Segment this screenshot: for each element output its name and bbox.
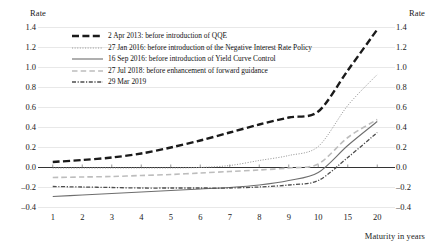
legend-item: 27 Jul 2018: before enhancement of forwa… xyxy=(70,65,312,77)
legend-label: 29 Mar 2019 xyxy=(106,76,146,88)
series-line xyxy=(53,120,378,178)
y-tick-label-right: 1.4 xyxy=(396,22,422,32)
x-tick-label: 8 xyxy=(247,212,271,222)
y-tick-label-right: –0.4 xyxy=(396,202,422,212)
series-line xyxy=(53,133,378,189)
y-tick-label-left: 0.2 xyxy=(12,142,36,152)
x-tick-label: 7 xyxy=(218,212,242,222)
legend-label: 16 Sep 2016: before introduction of Yiel… xyxy=(106,53,276,65)
y-tick-label-left: –0.2 xyxy=(12,182,36,192)
y-tick-label-left: 1.2 xyxy=(12,42,36,52)
interest-rate-yield-curve-chart: Rate Rate Maturity in years 1.41.21.00.8… xyxy=(0,0,431,247)
legend-line-swatch xyxy=(70,65,106,77)
legend-line-swatch xyxy=(70,76,106,88)
series-line xyxy=(53,75,378,169)
y-tick-label-right: 1.2 xyxy=(396,42,422,52)
series-line xyxy=(53,122,378,197)
x-tick-label: 9 xyxy=(277,212,301,222)
y-tick-label-left: 0.4 xyxy=(12,122,36,132)
x-tick-label: 10 xyxy=(306,212,330,222)
y-tick-label-right: 0.4 xyxy=(396,122,422,132)
x-tick-label: 1 xyxy=(41,212,65,222)
x-tick-label: 4 xyxy=(129,212,153,222)
legend-label: 27 Jul 2018: before enhancement of forwa… xyxy=(106,65,268,77)
y-tick-label-right: 0.8 xyxy=(396,82,422,92)
y-tick-label-left: 0.8 xyxy=(12,82,36,92)
y-tick-label-right: 1.0 xyxy=(396,62,422,72)
x-tick-label: 2 xyxy=(70,212,94,222)
y-tick-label-right: 0.2 xyxy=(396,142,422,152)
y-tick-label-left: 1.4 xyxy=(12,22,36,32)
legend-item: 29 Mar 2019 xyxy=(70,76,312,88)
y-tick-label-right: –0.2 xyxy=(396,182,422,192)
chart-legend: 2 Apr 2013: before introduction of QQE27… xyxy=(70,30,312,88)
legend-line-swatch xyxy=(70,30,106,42)
legend-label: 2 Apr 2013: before introduction of QQE xyxy=(106,30,227,42)
x-tick-label: 20 xyxy=(365,212,389,222)
x-tick-label: 6 xyxy=(188,212,212,222)
y-tick-label-left: 1.0 xyxy=(12,62,36,72)
x-tick-label: 15 xyxy=(336,212,360,222)
legend-label: 27 Jan 2016: before introduction of the … xyxy=(106,42,312,54)
legend-item: 16 Sep 2016: before introduction of Yiel… xyxy=(70,53,312,65)
legend-item: 27 Jan 2016: before introduction of the … xyxy=(70,42,312,54)
legend-line-swatch xyxy=(70,53,106,65)
x-tick-label: 5 xyxy=(159,212,183,222)
legend-item: 2 Apr 2013: before introduction of QQE xyxy=(70,30,312,42)
x-tick-label: 3 xyxy=(100,212,124,222)
y-tick-label-right: 0.0 xyxy=(396,162,422,172)
y-tick-label-right: 0.6 xyxy=(396,102,422,112)
y-tick-label-left: 0.0 xyxy=(12,162,36,172)
legend-line-swatch xyxy=(70,42,106,54)
y-tick-label-left: 0.6 xyxy=(12,102,36,112)
y-tick-label-left: –0.4 xyxy=(12,202,36,212)
